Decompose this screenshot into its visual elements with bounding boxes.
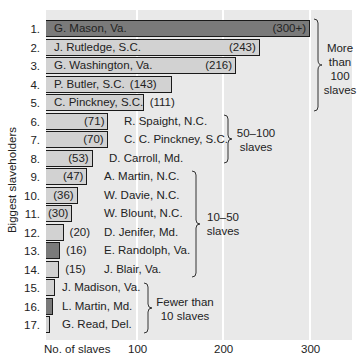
bar-name-label: A. Martin, N.C.: [104, 168, 179, 185]
group-label-fewer-than-10: Fewer than10 slaves: [150, 295, 220, 323]
bar-value-label: (111): [150, 94, 175, 111]
y-axis-label: Biggest slaveholders: [6, 120, 18, 240]
bar-name-label: R. Spaight, N.C.: [124, 113, 207, 130]
bar-value-label: (20): [70, 224, 90, 241]
bar-value-label: (70): [83, 131, 103, 148]
x-tick-300: 300: [301, 343, 320, 355]
bar-value-label: (15): [65, 261, 85, 278]
x-tick-100: 100: [128, 343, 147, 355]
bar-name-label: J. Blair, Va.: [104, 261, 161, 278]
row-number: 5.: [0, 94, 40, 112]
bar-value-label: (47): [63, 168, 83, 185]
bar: [46, 298, 53, 315]
x-tick-200: 200: [214, 343, 233, 355]
bar-name-label: W. Blount, N.C.: [104, 205, 183, 222]
group-label-10-50: 10–50slaves: [198, 210, 248, 238]
bar-value-label: (300+): [272, 20, 306, 37]
row-number: 2.: [0, 39, 40, 57]
bar-name-label: C. Pinckney, S.C.: [54, 94, 143, 111]
bar-value-label: (71): [84, 113, 104, 130]
bar-name-label: P. Butler, S.C.: [54, 76, 125, 93]
row-number: 13.: [0, 242, 40, 260]
bar: [46, 261, 59, 278]
group-label-more-than-100: Morethan100slaves: [320, 41, 360, 97]
gridline-300: [309, 10, 311, 340]
bar-value-label: (53): [68, 150, 88, 167]
row-number: 17.: [0, 316, 40, 334]
row-number: 14.: [0, 261, 40, 279]
row-number: 3.: [0, 57, 40, 75]
bar-value-label: (243): [229, 39, 256, 56]
bar-name-label: G. Mason, Va.: [54, 20, 127, 37]
bar-value-label: (36): [53, 187, 73, 204]
group-label-50-100: 50–100slaves: [226, 126, 286, 154]
bar: [46, 242, 60, 259]
bar: [46, 279, 55, 296]
row-number: 15.: [0, 279, 40, 297]
x-axis-label: No. of slaves: [44, 343, 110, 355]
bar-value-label: (216): [205, 57, 232, 74]
row-number: 16.: [0, 298, 40, 316]
bar: [46, 316, 50, 333]
bar-name-label: C. C. Pinckney, S.C.: [124, 131, 228, 148]
bar-name-label: D. Carroll, Md.: [109, 150, 183, 167]
bar: [46, 224, 64, 241]
bar-name-label: D. Jenifer, Md.: [104, 224, 178, 241]
row-number: 4.: [0, 76, 40, 94]
row-number: 1.: [0, 20, 40, 38]
bar-name-label: G. Read, Del.: [62, 316, 132, 333]
bar-name-label: J. Rutledge, S.C.: [54, 39, 141, 56]
bar-name-label: E. Randolph, Va.: [104, 242, 190, 259]
bar-name-label: L. Martin, Md.: [62, 298, 132, 315]
bar-name-label: W. Davie, N.C.: [104, 187, 179, 204]
bar-name-label: J. Madison, Va.: [62, 279, 140, 296]
bar-name-label: G. Washington, Va.: [54, 57, 152, 74]
bar-value-label: (143): [130, 76, 157, 93]
bar-value-label: (30): [48, 205, 68, 222]
bar-value-label: (16): [66, 242, 86, 259]
